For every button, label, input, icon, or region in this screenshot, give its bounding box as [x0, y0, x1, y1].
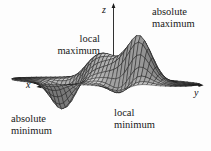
z-axis-label: z: [102, 5, 106, 15]
label-absolute-maximum-line2: maximum: [152, 18, 195, 30]
label-absolute-maximum: absolute maximum: [152, 6, 195, 29]
label-local-maximum: local maximum: [57, 33, 100, 56]
figure-canvas: absolute maximum local maximum local min…: [0, 0, 211, 151]
y-axis-label: y: [194, 88, 198, 98]
label-local-maximum-line1: local: [57, 33, 100, 45]
label-absolute-minimum: absolute minimum: [11, 113, 52, 136]
label-absolute-minimum-line2: minimum: [11, 125, 52, 137]
surface-mesh: [12, 36, 201, 109]
label-local-minimum-line1: local: [114, 107, 155, 119]
label-absolute-minimum-line1: absolute: [11, 113, 52, 125]
label-local-maximum-line2: maximum: [57, 45, 100, 57]
label-local-minimum-line2: minimum: [114, 119, 155, 131]
x-axis-label: x: [26, 80, 30, 90]
label-local-minimum: local minimum: [114, 107, 155, 130]
label-absolute-maximum-line1: absolute: [152, 6, 195, 18]
